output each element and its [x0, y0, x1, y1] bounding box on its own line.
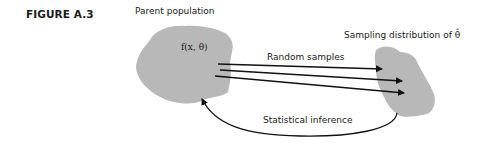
- parent-population-title: Parent population: [135, 6, 215, 16]
- sampling-distribution-title: Sampling distribution of θ̂: [344, 30, 460, 40]
- sampling-distribution-blob: [375, 46, 435, 116]
- diagram-canvas: [0, 0, 501, 143]
- parent-function-label: f(x, θ): [181, 42, 208, 52]
- random-samples-arrows: [215, 64, 404, 93]
- parent-population-blob: [136, 26, 233, 104]
- statistical-inference-label: Statistical inference: [263, 115, 352, 125]
- random-samples-label: Random samples: [267, 52, 345, 62]
